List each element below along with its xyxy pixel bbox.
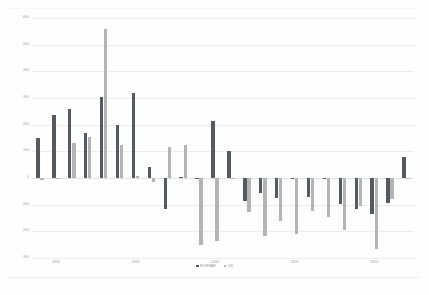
bar-us-2006 — [311, 178, 314, 211]
bar-us-1998 — [184, 145, 187, 178]
bar-us-2012 — [406, 178, 409, 179]
bar-norway-1998 — [179, 177, 182, 178]
y-axis-tick-label: -200 — [22, 230, 29, 233]
y-axis-tick-label: 0 — [27, 176, 29, 179]
y-axis-tick-label: 100 — [23, 150, 29, 153]
bar-norway-1990 — [52, 115, 55, 178]
bar-norway-2002 — [243, 178, 246, 201]
chart-container: 6005004003002001000-100-200-300 19901995… — [0, 0, 429, 295]
legend-label: NORWAY — [200, 264, 217, 268]
bottom-divider — [8, 277, 421, 278]
y-axis-tick-label: -100 — [22, 203, 29, 206]
bar-us-1995 — [136, 176, 139, 178]
bar-norway-2008 — [339, 178, 342, 204]
bar-us-1992 — [88, 137, 91, 178]
bar-us-2005 — [295, 178, 298, 234]
bar-norway-2007 — [323, 178, 326, 179]
bar-us-2001 — [231, 178, 234, 179]
bar-us-2011 — [390, 178, 393, 199]
bar-us-1990 — [56, 178, 59, 179]
y-axis-tick-label: 400 — [23, 70, 29, 73]
bar-norway-2010 — [370, 178, 373, 214]
gridline — [32, 125, 414, 126]
bar-us-1989 — [40, 178, 43, 180]
top-divider — [8, 8, 421, 9]
gridline — [32, 98, 414, 99]
bar-norway-2000 — [211, 121, 214, 178]
bar-us-2008 — [343, 178, 346, 230]
bar-norway-2003 — [259, 178, 262, 193]
gridline — [32, 258, 414, 259]
plot-area: 6005004003002001000-100-200-300 19901995… — [32, 18, 414, 258]
legend-item-us[interactable]: US — [224, 264, 233, 268]
bar-norway-1993 — [100, 97, 103, 178]
bar-norway-2006 — [307, 178, 310, 197]
bar-norway-1989 — [36, 138, 39, 178]
bar-norway-1991 — [68, 109, 71, 178]
bar-us-2002 — [247, 178, 250, 212]
chart-legend: NORWAYUS — [0, 264, 429, 268]
bar-us-1996 — [152, 178, 155, 182]
bar-us-1993 — [104, 29, 107, 178]
y-axis-tick-label: -300 — [22, 256, 29, 259]
bar-us-1997 — [168, 147, 171, 178]
bar-norway-1999 — [195, 178, 198, 179]
gridline — [32, 18, 414, 19]
y-axis-tick-label: 500 — [23, 43, 29, 46]
gridline — [32, 71, 414, 72]
bar-us-2010 — [375, 178, 378, 249]
bar-us-2000 — [215, 178, 218, 241]
bar-us-1994 — [120, 145, 123, 178]
bar-norway-1994 — [116, 125, 119, 178]
bar-us-2009 — [359, 178, 362, 206]
bar-us-2004 — [279, 178, 282, 221]
y-axis-tick-label: 600 — [23, 16, 29, 19]
bar-norway-1996 — [148, 167, 151, 178]
bar-norway-2004 — [275, 178, 278, 198]
bar-norway-2012 — [402, 157, 405, 178]
bar-norway-1992 — [84, 133, 87, 178]
bar-norway-2001 — [227, 151, 230, 178]
gridline — [32, 45, 414, 46]
bar-norway-1997 — [164, 178, 167, 209]
y-axis-tick-label: 300 — [23, 96, 29, 99]
bar-norway-2005 — [291, 178, 294, 179]
legend-label: US — [228, 264, 233, 268]
bar-norway-2009 — [355, 178, 358, 209]
bar-us-2007 — [327, 178, 330, 217]
y-axis-tick-label: 200 — [23, 123, 29, 126]
bar-us-1991 — [72, 143, 75, 178]
bar-norway-1995 — [132, 93, 135, 178]
bar-norway-2011 — [386, 178, 389, 203]
bar-us-1999 — [199, 178, 202, 245]
gridline — [32, 231, 414, 232]
legend-swatch-icon — [196, 265, 199, 268]
legend-item-norway[interactable]: NORWAY — [196, 264, 217, 268]
bar-us-2003 — [263, 178, 266, 236]
legend-swatch-icon — [224, 265, 227, 268]
